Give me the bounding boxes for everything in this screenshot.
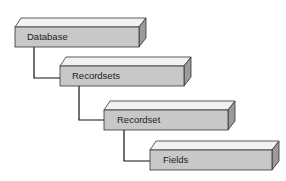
- node-label: Recordset: [117, 114, 161, 125]
- node-recordsets: Recordsets: [60, 57, 191, 86]
- node-fields: Fields: [150, 141, 279, 170]
- node-recordset: Recordset: [104, 101, 235, 130]
- node-database: Database: [15, 18, 146, 47]
- edge-database-recordsets: [34, 47, 60, 78]
- node-label: Fields: [163, 154, 189, 165]
- node-label: Recordsets: [72, 70, 120, 81]
- hierarchy-diagram: Database Recordsets Recordset Fields: [0, 0, 286, 181]
- edge-recordsets-recordset: [79, 86, 104, 120]
- node-label: Database: [27, 31, 68, 42]
- edge-recordset-fields: [124, 130, 150, 161]
